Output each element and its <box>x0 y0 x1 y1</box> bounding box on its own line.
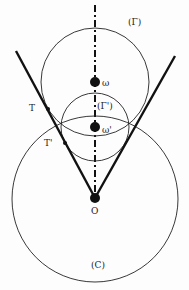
point-t <box>46 107 50 111</box>
point-omega-prime <box>90 122 100 132</box>
diagram-canvas <box>0 0 189 290</box>
label-t: T <box>29 104 35 113</box>
label-omega: ω <box>102 79 109 88</box>
label-c: (C) <box>91 261 105 270</box>
point-o <box>90 193 100 203</box>
label-omega-prime: ω' <box>102 126 112 135</box>
point-t-prime <box>63 141 67 145</box>
label-gamma: (Γ) <box>128 18 141 27</box>
point-omega <box>90 77 100 87</box>
label-gamma-prime: (Γ') <box>97 102 113 111</box>
label-t-prime: T' <box>44 139 52 148</box>
tangent-line-left <box>16 51 95 198</box>
label-o: O <box>91 207 98 216</box>
geometry-diagram: (Γ) (Γ') ω ω' T T' O (C) <box>0 0 189 290</box>
